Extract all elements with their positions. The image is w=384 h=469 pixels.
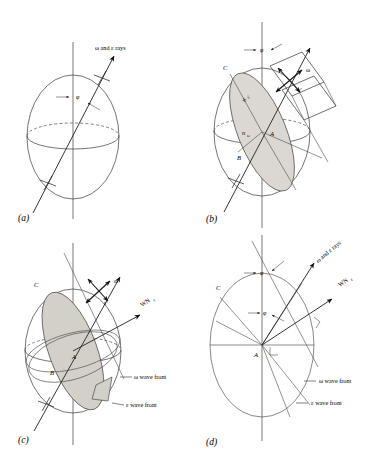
panel-b: φ ω ε' n ε' n ω A B C (b) — [192, 0, 384, 234]
radius-c-d — [220, 297, 262, 345]
panel-a-drawing: φ ω and ε rays (a) — [0, 0, 192, 234]
point-b-label-b: B — [237, 154, 241, 161]
wave-normal-sub-c: ε — [152, 297, 156, 302]
vibration-ticks-a — [40, 71, 110, 190]
point-c-label-c: C — [34, 281, 39, 288]
point-a-label-d: A — [253, 351, 259, 358]
angle-arrow-right-a — [88, 103, 100, 110]
panel-c: ω ε' WN ε ω wave front ε wave front A B … — [0, 235, 192, 469]
plane-edge2-b — [324, 82, 336, 106]
wave-normal-label-c: WN — [139, 296, 152, 308]
right-angle-marker-center-d — [270, 347, 278, 355]
radius-lower-right-d — [262, 345, 310, 405]
wave-front-plane-lower-b — [282, 76, 336, 120]
rays-label-a: ω and ε rays — [95, 44, 126, 51]
radius-2-d — [216, 321, 262, 345]
plane-edge-b — [292, 96, 304, 120]
angle-label-inner-d: φ — [263, 310, 267, 316]
figure-container: φ ω and ε rays (a) — [0, 0, 384, 469]
angle-label-b: φ — [260, 47, 264, 53]
rays-label-group-d: ω and ε rays — [314, 238, 342, 263]
omega-front-label-c: ω wave front — [134, 373, 167, 380]
wave-normal-group-d: WN ε — [336, 273, 353, 289]
panel-d: φ φ ω and ε rays WN ε ω wave front ε wav… — [192, 235, 384, 469]
panel-letter-c: (c) — [18, 435, 29, 446]
wave-normal-label-d: WN — [336, 276, 349, 288]
panel-a: φ ω and ε rays (a) — [0, 0, 192, 234]
panel-b-drawing: φ ω ε' n ε' n ω A B C (b) — [192, 0, 384, 234]
n-omega-sub-b: ω — [247, 133, 250, 138]
omega-vibration-label-c: ω — [114, 277, 118, 284]
n-omega-label-b: n — [242, 129, 245, 136]
panel-c-drawing: ω ε' WN ε ω wave front ε wave front A B … — [0, 235, 192, 469]
omega-front-label-d: ω wave front — [319, 377, 352, 384]
rays-label-d: ω and ε rays — [314, 238, 342, 263]
radius-lower-d — [262, 345, 290, 417]
epsilon-front-label-c: ε wave front — [126, 401, 157, 408]
epsilon-front-leader-c — [112, 403, 124, 405]
angle-arrow-right-top-d — [272, 261, 284, 271]
wave-normal-group-c: WN ε — [139, 294, 156, 310]
ray-line-a — [33, 56, 114, 213]
angle-label-a: φ — [76, 94, 80, 100]
point-c-label-d: C — [216, 284, 221, 291]
epsilon-vibration-label-b: ε' — [298, 86, 302, 93]
omega-vibration-label-b: ω — [306, 66, 310, 73]
panel-letter-b: (b) — [206, 214, 217, 225]
wave-normal-sub-d: ε — [349, 277, 354, 282]
panel-letter-d: (d) — [206, 437, 217, 448]
point-b-label-c: B — [50, 369, 54, 376]
panel-letter-a: (a) — [18, 213, 29, 224]
right-angle-marker-upper-d — [314, 317, 320, 328]
point-c-label-b: C — [223, 64, 228, 71]
epsilon-front-label-d: ε wave front — [311, 399, 342, 406]
angle-arrow-right-b — [271, 44, 282, 50]
panel-d-drawing: φ φ ω and ε rays WN ε ω wave front ε wav… — [192, 235, 384, 469]
epsilon-vibration-label-c: ε' — [104, 299, 108, 306]
wave-normal-arrow-d — [262, 299, 332, 345]
